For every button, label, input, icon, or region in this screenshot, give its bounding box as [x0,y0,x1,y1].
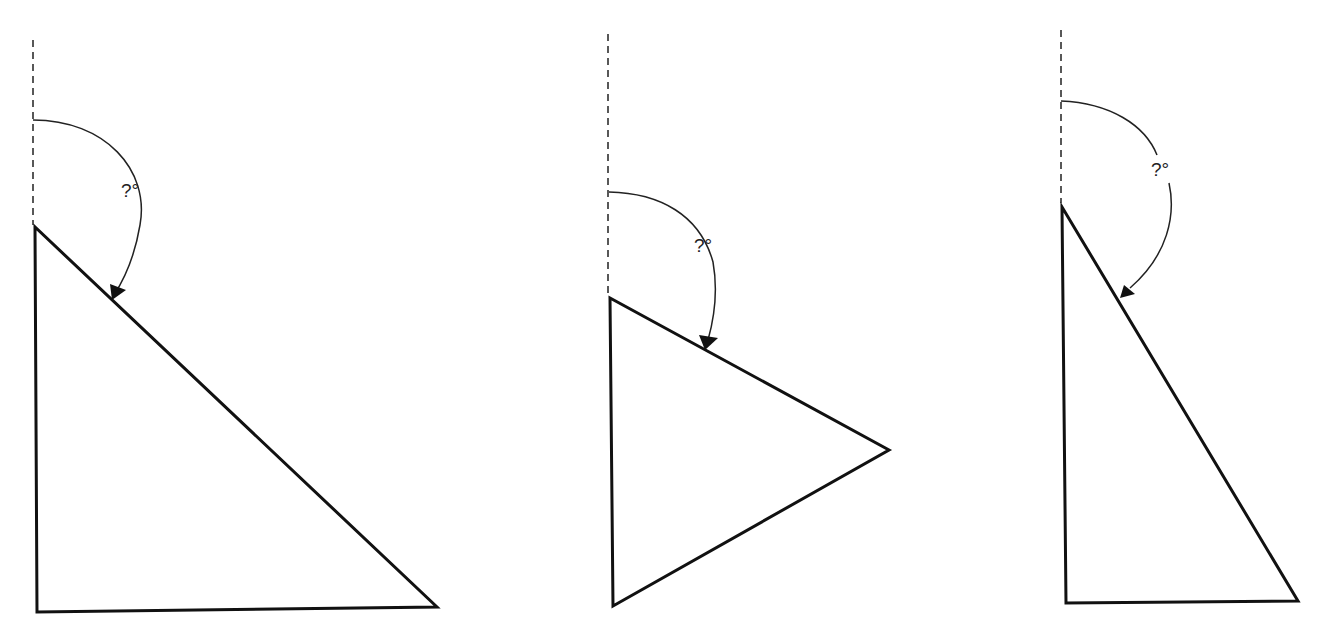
angle-arc [33,120,141,295]
angle-label: ?° [1151,159,1169,180]
angle-arc [1061,101,1171,288]
angle-label: ?° [121,180,139,201]
triangle-shape [1062,207,1298,603]
angle-label: ?° [694,235,712,256]
arrowhead-icon [1120,285,1135,298]
angle-diagram: ?° ?° ?° [0,0,1317,629]
triangle-shape [35,227,437,612]
figure-triangle-3: ?° [1061,30,1298,603]
triangle-shape [610,298,889,606]
angle-arc [609,192,715,340]
figure-triangle-1: ?° [33,40,437,612]
figure-triangle-2: ?° [608,34,889,606]
arrowhead-icon [110,284,126,300]
